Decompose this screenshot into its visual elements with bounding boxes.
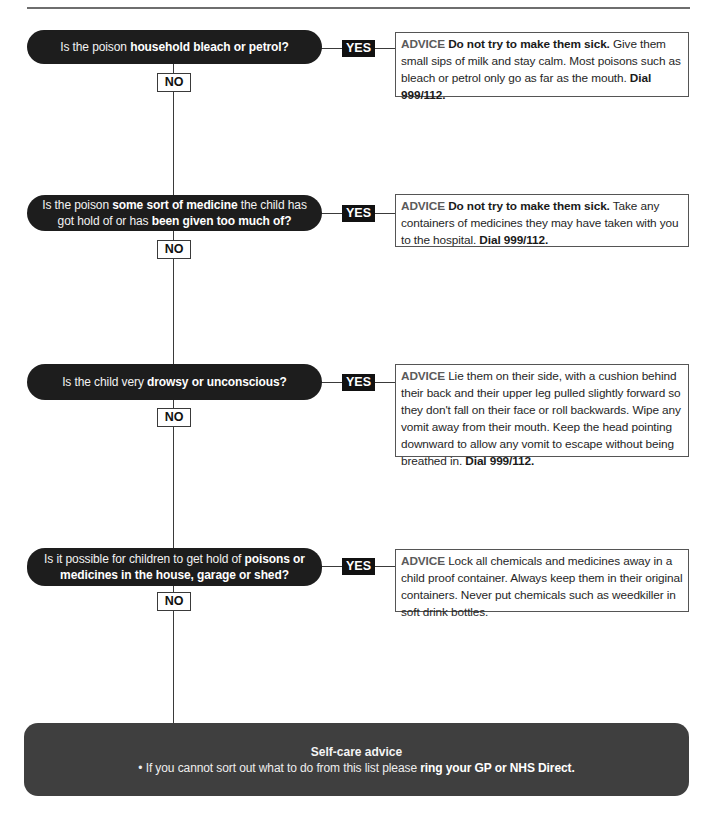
advice-box-4: ADVICE Lock all chemicals and medicines …	[395, 549, 689, 612]
no-badge-4: NO	[157, 592, 191, 611]
advice-label: ADVICE	[401, 199, 445, 213]
yes-badge-1: YES	[342, 40, 375, 57]
self-care-title: Self-care advice	[24, 744, 689, 760]
advice-box-3: ADVICE Lie them on their side, with a cu…	[395, 364, 689, 457]
yes-badge-2: YES	[342, 205, 375, 222]
question-2-pill: Is the poison some sort of medicine the …	[27, 195, 322, 231]
yes-badge-3: YES	[342, 374, 375, 391]
advice-label: ADVICE	[401, 37, 445, 51]
header-rule	[27, 7, 690, 9]
advice-label: ADVICE	[401, 369, 445, 383]
advice-box-2: ADVICE Do not try to make them sick. Tak…	[395, 194, 689, 247]
question-1-pill: Is the poison household bleach or petrol…	[27, 30, 322, 64]
self-care-bullet-item: • If you cannot sort out what to do from…	[24, 760, 689, 776]
question-4-text: Is it possible for children to get hold …	[41, 551, 308, 583]
question-3-pill: Is the child very drowsy or unconscious?	[27, 364, 322, 400]
no-badge-2: NO	[157, 240, 191, 259]
advice-label: ADVICE	[401, 554, 445, 568]
self-care-advice-box: Self-care advice • If you cannot sort ou…	[24, 723, 689, 796]
advice-box-1: ADVICE Do not try to make them sick. Giv…	[395, 32, 689, 97]
yes-badge-4: YES	[342, 558, 375, 575]
question-2-text: Is the poison some sort of medicine the …	[41, 197, 308, 229]
no-badge-3: NO	[157, 408, 191, 427]
question-4-pill: Is it possible for children to get hold …	[27, 548, 322, 586]
question-3-text: Is the child very drowsy or unconscious?	[62, 374, 287, 390]
question-1-text: Is the poison household bleach or petrol…	[60, 39, 289, 55]
no-badge-1: NO	[157, 73, 191, 92]
